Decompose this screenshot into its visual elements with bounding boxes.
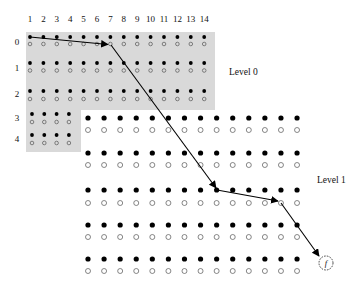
hollow-node	[198, 235, 203, 240]
filled-node	[246, 150, 251, 155]
filled-node	[85, 187, 90, 192]
filled-node	[182, 187, 187, 192]
filled-node	[150, 115, 155, 120]
hollow-node	[134, 201, 139, 206]
hollow-node	[134, 163, 139, 168]
column-label: 7	[108, 14, 113, 24]
filled-node	[149, 35, 153, 39]
filled-node	[55, 112, 59, 116]
hollow-node	[86, 163, 91, 168]
column-label: 8	[122, 14, 127, 24]
filled-node	[278, 187, 283, 192]
filled-node	[118, 222, 123, 227]
filled-node	[166, 150, 171, 155]
filled-node	[198, 187, 203, 192]
filled-node	[95, 61, 99, 65]
filled-node	[95, 89, 99, 93]
hollow-node	[246, 235, 251, 240]
hollow-node	[230, 269, 235, 274]
filled-node	[246, 187, 251, 192]
filled-node	[202, 89, 206, 93]
filled-node	[149, 61, 153, 65]
row-labels: 01234	[15, 37, 20, 144]
hollow-node	[102, 235, 107, 240]
hollow-node	[102, 269, 107, 274]
hollow-node	[150, 128, 155, 133]
filled-node	[294, 256, 299, 261]
level1-label: Level 1	[317, 175, 346, 185]
filled-node	[294, 115, 299, 120]
filled-node	[118, 115, 123, 120]
filled-node	[294, 150, 299, 155]
filled-node	[202, 35, 206, 39]
filled-node	[118, 150, 123, 155]
filled-node	[30, 133, 34, 137]
filled-node	[189, 89, 193, 93]
arrow-segment-4	[281, 203, 319, 256]
filled-node	[262, 150, 267, 155]
hollow-node	[182, 269, 187, 274]
hollow-node	[246, 269, 251, 274]
hollow-node	[166, 235, 171, 240]
filled-node	[85, 222, 90, 227]
hollow-node	[214, 201, 219, 206]
hollow-node	[214, 128, 219, 133]
filled-node	[246, 256, 251, 261]
filled-node	[122, 89, 126, 93]
filled-node	[262, 187, 267, 192]
filled-node	[198, 150, 203, 155]
filled-node	[118, 187, 123, 192]
row-label: 1	[15, 63, 20, 73]
filled-node	[150, 222, 155, 227]
hollow-node	[262, 269, 267, 274]
filled-node	[166, 256, 171, 261]
level-grid-diagram: 1234567891011121314 01234 Level 0 Level …	[0, 0, 359, 289]
filled-node	[198, 256, 203, 261]
hollow-node	[166, 128, 171, 133]
filled-node	[182, 256, 187, 261]
filled-node	[135, 89, 139, 93]
hollow-node	[102, 128, 107, 133]
filled-node	[294, 187, 299, 192]
column-label: 4	[68, 14, 73, 24]
filled-node	[82, 35, 86, 39]
filled-node	[262, 222, 267, 227]
filled-node	[166, 222, 171, 227]
filled-node	[134, 150, 139, 155]
hollow-node	[262, 163, 267, 168]
filled-node	[150, 256, 155, 261]
filled-node	[82, 61, 86, 65]
filled-node	[67, 133, 71, 137]
filled-node	[202, 61, 206, 65]
hollow-node	[198, 201, 203, 206]
hollow-node	[134, 269, 139, 274]
filled-node	[55, 61, 59, 65]
row-label: 4	[15, 134, 20, 144]
filled-node	[42, 112, 46, 116]
hollow-node	[182, 235, 187, 240]
filled-node	[162, 89, 166, 93]
hollow-node	[295, 235, 300, 240]
filled-node	[134, 256, 139, 261]
level1-row-1	[85, 150, 299, 167]
filled-node	[109, 35, 113, 39]
filled-node	[149, 89, 153, 93]
filled-node	[189, 35, 193, 39]
filled-node	[109, 89, 113, 93]
hollow-node	[150, 201, 155, 206]
column-label: 9	[135, 14, 140, 24]
filled-node	[230, 222, 235, 227]
filled-node	[85, 150, 90, 155]
hollow-node	[230, 235, 235, 240]
hollow-node	[118, 128, 123, 133]
hollow-node	[246, 201, 251, 206]
column-labels: 1234567891011121314	[28, 14, 209, 24]
column-label: 12	[173, 14, 182, 24]
hollow-node	[166, 269, 171, 274]
filled-node	[182, 150, 187, 155]
hollow-node	[214, 163, 219, 168]
diagram-canvas: 1234567891011121314 01234 Level 0 Level …	[0, 0, 359, 289]
hollow-node	[182, 201, 187, 206]
column-label: 11	[160, 14, 169, 24]
row-label: 2	[15, 89, 20, 99]
